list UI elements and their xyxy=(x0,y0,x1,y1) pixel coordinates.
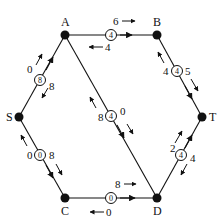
node-s: S xyxy=(6,110,24,124)
edge-c-d: 0 8 0 xyxy=(65,178,157,217)
backward-residual-label: 0 xyxy=(27,149,33,161)
node-label: B xyxy=(153,15,161,29)
node-dot xyxy=(61,194,70,203)
node-label: T xyxy=(209,110,217,124)
node-label: C xyxy=(61,204,69,217)
edge-direction-arrow xyxy=(185,135,192,148)
node-a: A xyxy=(61,15,71,40)
flow-value: 4 xyxy=(175,67,179,76)
forward-residual-label: 0 xyxy=(27,63,33,75)
node-t: T xyxy=(198,110,218,124)
backward-residual-arrow xyxy=(90,97,96,108)
backward-residual-label: 0 xyxy=(106,206,112,217)
edge-b-t: 4 4 5 xyxy=(157,35,202,117)
node-d: D xyxy=(153,194,163,218)
forward-residual-arrow xyxy=(191,79,198,91)
backward-residual-label: 4 xyxy=(163,65,169,77)
forward-residual-label: 2 xyxy=(170,142,176,154)
forward-residual-label: 5 xyxy=(185,65,191,77)
node-c: C xyxy=(61,194,70,218)
backward-residual-arrow xyxy=(181,164,187,175)
edge-direction-arrow xyxy=(185,86,192,99)
edge-direction-arrow xyxy=(117,125,124,138)
backward-residual-label: 8 xyxy=(98,111,104,123)
node-dot xyxy=(153,31,162,40)
flow-value: 0 xyxy=(38,151,42,160)
flow-value: 4 xyxy=(109,31,113,40)
flow-value: 0 xyxy=(109,194,113,203)
edge-d-t: 4 2 4 xyxy=(157,117,202,198)
backward-residual-arrow xyxy=(42,88,48,98)
edge-a-d: 4 8 0 xyxy=(65,35,157,198)
forward-residual-label: 6 xyxy=(113,15,119,27)
forward-residual-arrow xyxy=(56,164,62,175)
edge-a-b: 4 6 4 xyxy=(65,15,157,53)
node-dot xyxy=(153,194,162,203)
edge-s-c: 0 0 8 xyxy=(19,117,65,198)
flow-value: 4 xyxy=(109,112,113,121)
flow-network-diagram: 8 0 8 4 6 4 4 4 5 4 8 0 xyxy=(0,0,222,217)
forward-residual-arrow xyxy=(175,131,182,143)
node-label: S xyxy=(6,110,13,124)
edge-direction-arrow xyxy=(46,165,53,178)
edge-direction-arrow xyxy=(46,57,53,70)
backward-residual-label: 8 xyxy=(49,80,55,92)
forward-residual-arrow xyxy=(36,54,42,65)
backward-residual-arrow xyxy=(21,135,27,146)
forward-residual-label: 8 xyxy=(115,178,121,190)
node-label: A xyxy=(61,15,70,29)
backward-residual-arrow xyxy=(158,52,164,63)
node-label: D xyxy=(153,204,162,217)
node-dot xyxy=(198,113,207,122)
node-dot xyxy=(15,113,24,122)
backward-residual-label: 4 xyxy=(190,152,196,164)
flow-value: 4 xyxy=(179,151,183,160)
forward-residual-label: 0 xyxy=(120,105,126,117)
forward-residual-arrow xyxy=(127,124,133,134)
edge-s-a: 8 0 8 xyxy=(19,35,65,117)
node-b: B xyxy=(153,15,162,40)
backward-residual-label: 4 xyxy=(105,41,111,53)
forward-residual-label: 8 xyxy=(49,149,55,161)
node-dot xyxy=(61,31,70,40)
flow-value: 8 xyxy=(38,76,42,85)
